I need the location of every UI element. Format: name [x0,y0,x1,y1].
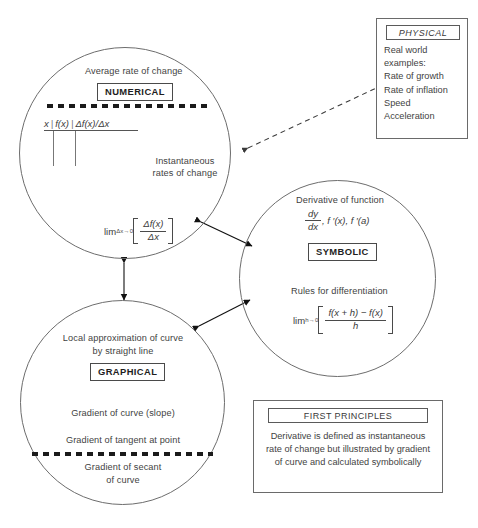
numerical-limit-fraction: Δf(x) Δx [140,219,166,243]
keyword-graphical: GRAPHICAL [90,363,165,381]
numerical-subheading-1: Instantaneous [140,155,230,168]
physical-item: examples: [384,57,467,70]
symbolic-subheading: Rules for differentiation [291,285,388,298]
symbolic-bracket-right [388,306,393,334]
numerical-table-rule-1 [53,131,54,166]
numerical-table-header: x|f(x)|Δf(x)/Δx [44,118,138,131]
first-principles-body: Derivative is defined as instantaneous r… [254,430,442,469]
symbolic-limit-fraction: f(x + h) − f(x) h [325,308,385,332]
symbolic-limit-expression: lim h→0 f(x + h) − f(x) h [293,306,393,334]
numerical-heading: Average rate of change [85,65,183,78]
numerical-limit-numerator: Δf(x) [140,219,166,231]
physical-item: Rate of inflation [384,84,467,97]
keyword-first-principles: FIRST PRINCIPLES [268,408,428,423]
symbolic-notation: dy dx , f ′(x), f ′(a) [305,209,369,233]
symbolic-limit-numerator: f(x + h) − f(x) [325,308,385,320]
symbolic-dy: dy [305,209,321,221]
physical-item: Rate of growth [384,70,467,83]
symbolic-dx: dx [305,221,321,232]
symbolic-limit-lim: lim [293,315,305,326]
divider-graphical [32,452,213,456]
numerical-rate-table: x|f(x)|Δf(x)/Δx [44,118,138,166]
numerical-bracket-left [133,218,138,244]
physical-examples-list: Real world examples: Rate of growth Rate… [377,44,467,123]
physical-item: Speed [384,97,467,110]
keyword-numerical: NUMERICAL [97,83,173,101]
keyword-physical: PHYSICAL [386,25,460,40]
graphical-item-gradient-tangent: Gradient of tangent at point [33,434,213,447]
concept-map-canvas: Average rate of change NUMERICAL x|f(x)|… [0,0,478,528]
box-first-principles: FIRST PRINCIPLES Derivative is defined a… [253,400,443,493]
numerical-limit-lim: lim [104,226,116,237]
physical-item: Real world [384,44,467,57]
arrow-numerical-symbolic [201,222,252,246]
graphical-item-gradient-curve: Gradient of curve (slope) [38,407,208,420]
numerical-table-col-fx: f(x) [55,118,69,129]
symbolic-dydx: dy dx [305,209,321,233]
keyword-symbolic: SYMBOLIC [308,243,377,261]
numerical-table-rule-2 [75,131,76,166]
symbolic-bracket-left [318,306,323,334]
numerical-bracket-right [168,218,173,244]
numerical-limit-subscript: Δx→0 [116,228,133,234]
graphical-heading-1: Local approximation of curve [38,332,208,345]
numerical-limit-denominator: Δx [145,232,162,243]
symbolic-limit-subscript: h→0 [305,317,318,323]
graphical-heading-2: by straight line [38,345,208,358]
numerical-limit-expression: lim Δx→0 Δf(x) Δx [104,218,173,244]
physical-item: Acceleration [384,110,467,123]
graphical-item-gradient-secant-2: of curve [38,474,208,487]
graphical-item-gradient-secant-1: Gradient of secant [38,461,208,474]
symbolic-heading: Derivative of function [296,194,384,207]
divider-numerical [47,104,209,108]
symbolic-limit-denominator: h [350,321,361,332]
box-physical: PHYSICAL Real world examples: Rate of gr… [376,18,468,139]
numerical-table-col-ratio: Δf(x)/Δx [75,118,109,129]
numerical-subheading-2: rates of change [140,167,230,180]
symbolic-prime-forms: , f ′(x), f ′(a) [322,215,369,226]
